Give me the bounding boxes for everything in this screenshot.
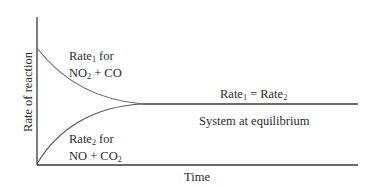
rate2-label: Rate2 for NO + CO2 — [69, 131, 122, 165]
rate1-reactant-b: + CO — [91, 66, 122, 80]
rate1-word: Rate — [69, 49, 92, 63]
rate2-word: Rate — [69, 132, 92, 146]
equilibrium-note: System at equilibrium — [199, 113, 309, 130]
rate1-reactant-a: NO — [69, 66, 87, 80]
diagram-canvas — [0, 0, 378, 188]
rate2-for: for — [96, 132, 114, 146]
equilibrium-equation-label: Rate1 = Rate2 — [220, 86, 287, 103]
eq-rate1: Rate — [220, 87, 243, 101]
rate2-product-a: NO + CO — [69, 149, 118, 163]
rate1-label: Rate1 for NO2 + CO — [69, 48, 122, 82]
x-axis-label: Time — [184, 169, 210, 186]
eq-equals-rate2: = Rate — [247, 87, 283, 101]
rate1-for: for — [96, 49, 114, 63]
eq-rate2-sub: 2 — [283, 93, 287, 102]
y-axis-label: Rate of reaction — [21, 52, 36, 132]
rate2-product-sub: 2 — [118, 155, 122, 164]
